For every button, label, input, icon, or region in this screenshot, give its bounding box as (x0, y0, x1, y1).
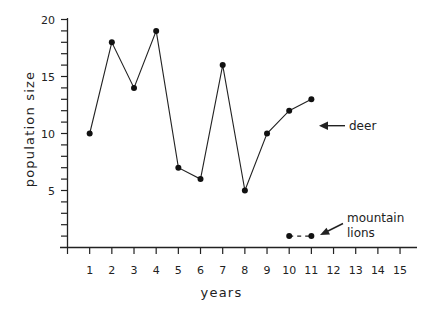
deer-label: deer (349, 119, 376, 133)
deer-point (87, 131, 93, 137)
deer-annotation: deer (319, 119, 376, 133)
deer-point (264, 131, 270, 137)
x-tick-label: 14 (371, 264, 385, 277)
mountain-lions-point (286, 233, 292, 239)
deer-point (308, 96, 314, 102)
x-tick-label: 4 (153, 264, 160, 277)
x-tick-label: 13 (349, 264, 363, 277)
population-chart: 5101520 123456789101112131415 population… (0, 0, 439, 320)
x-tick-label: 9 (264, 264, 271, 277)
x-tick-label: 12 (327, 264, 341, 277)
x-tick-label: 10 (282, 264, 296, 277)
x-tick-label: 5 (175, 264, 182, 277)
x-axis-ticks: 123456789101112131415 (68, 248, 408, 278)
y-tick-label: 10 (41, 128, 55, 141)
y-tick-label: 15 (41, 71, 55, 84)
series-layer (87, 28, 315, 239)
y-tick-label: 20 (41, 14, 55, 27)
deer-point (131, 85, 137, 91)
deer-point (109, 39, 115, 45)
deer-point (286, 108, 292, 114)
deer-point (220, 62, 226, 68)
x-tick-label: 15 (393, 264, 407, 277)
deer-point (153, 28, 159, 34)
mountain-lions-label-line2: lions (347, 226, 375, 240)
y-tick-label: 5 (48, 185, 55, 198)
y-axis-ticks: 5101520 (41, 14, 68, 237)
deer-line (90, 31, 312, 191)
x-tick-label: 7 (219, 264, 226, 277)
deer-point (242, 188, 248, 194)
x-tick-label: 8 (241, 264, 248, 277)
mountain-lions-arrow (326, 224, 343, 233)
x-tick-label: 3 (131, 264, 138, 277)
mountain-lions-label-line1: mountain (347, 211, 404, 225)
x-tick-label: 6 (197, 264, 204, 277)
x-tick-label: 1 (86, 264, 93, 277)
y-axis-title: population size (22, 71, 37, 188)
deer-point (175, 165, 181, 171)
mountain-lions-annotation: mountain lions (320, 211, 404, 241)
deer-arrowhead-icon (319, 122, 328, 130)
deer-point (198, 176, 204, 182)
x-tick-label: 11 (304, 264, 318, 277)
mountain-lions-point (308, 233, 314, 239)
x-axis-title: years (201, 285, 243, 300)
x-tick-label: 2 (108, 264, 115, 277)
